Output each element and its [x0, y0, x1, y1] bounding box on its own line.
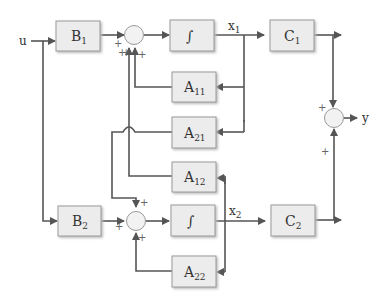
wire-x2-up-arrow	[217, 178, 225, 184]
block-b1: B1	[56, 21, 100, 51]
summing-junction-1	[125, 26, 144, 45]
state-label-x1: x1	[228, 19, 241, 35]
sign-sum2-bottom: +	[138, 232, 146, 243]
block-c2: C2	[271, 205, 315, 236]
block-a11: A11	[172, 72, 216, 102]
sign-output-bottom: +	[321, 146, 329, 157]
svg-text:∫: ∫	[186, 28, 193, 44]
sign-sum2-left: +	[115, 221, 123, 232]
output-label-y: y	[361, 111, 369, 125]
input-label-u: u	[19, 34, 27, 48]
block-a12: A12	[172, 162, 216, 192]
sign-sum2-top: +	[140, 197, 148, 208]
sign-sum1-extra: +	[122, 47, 130, 58]
summing-junction-output	[325, 109, 344, 128]
block-integrator-1: ∫	[170, 20, 214, 51]
block-a22: A22	[172, 256, 216, 287]
state-label-x2: x2	[229, 204, 242, 220]
block-integrator-2: ∫	[171, 205, 215, 236]
sign-sum1-a11: +	[138, 49, 146, 60]
block-c1: C1	[270, 20, 314, 51]
block-b2: B2	[58, 206, 101, 236]
sign-output-top: +	[318, 102, 326, 113]
block-diagram: B1 ∫ C1 A11 A21 A12 B2 ∫ C2 A22 u y x1 x…	[0, 0, 388, 307]
summing-junction-2	[127, 212, 146, 231]
wire-u-to-b2	[43, 41, 57, 221]
wire-a21-to-sum2	[112, 127, 172, 207]
block-a21: A21	[172, 117, 216, 148]
svg-text:∫: ∫	[187, 213, 194, 229]
